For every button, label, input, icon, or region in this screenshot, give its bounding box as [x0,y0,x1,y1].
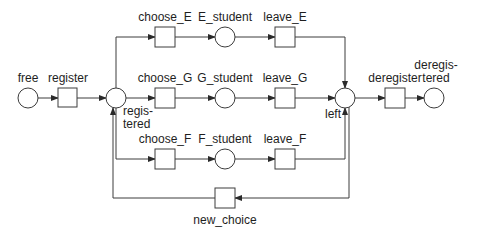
label-register: register [48,71,88,85]
label-leave-g: leave_G [263,71,308,85]
transitions [58,27,405,208]
petri-net-diagram: free register regis- tered choose_E E_st… [0,0,480,234]
label-choose-e: choose_E [138,10,191,24]
labels: free register regis- tered choose_E E_st… [18,10,458,227]
label-g-student: G_student [197,71,253,85]
place-e-student [215,27,235,47]
label-choose-g: choose_G [138,71,193,85]
label-f-student: F_student [198,132,252,146]
transition-new-choice [215,188,235,208]
label-free: free [18,71,39,85]
label-deregister: deregister [368,71,421,85]
place-free [18,88,38,108]
transition-leave-f [275,149,295,169]
transition-leave-e [275,27,295,47]
transition-leave-g [275,88,295,108]
label-e-student: E_student [198,10,253,24]
transition-choose-f [155,149,175,169]
label-registered-line2: tered [123,117,150,131]
label-deregistered-line2: tered [422,71,449,85]
label-registered-line1: regis- [123,104,153,118]
label-left: left [325,107,342,121]
place-g-student [215,88,235,108]
label-deregistered-line1: deregis- [414,58,457,72]
transition-register [58,88,77,107]
label-leave-f: leave_F [264,132,307,146]
place-deregistered [424,88,444,108]
label-new-choice: new_choice [193,213,257,227]
transition-deregister [385,88,405,108]
transition-choose-e [155,27,175,47]
place-left [335,88,355,108]
arcs [38,37,424,198]
transition-choose-g [155,88,175,108]
label-leave-e: leave_E [263,10,306,24]
place-f-student [215,149,235,169]
label-choose-f: choose_F [139,132,192,146]
